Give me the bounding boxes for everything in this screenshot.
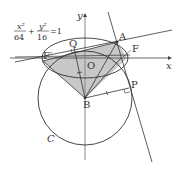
label-p: P <box>131 79 138 90</box>
y-axis-arrow-icon <box>83 13 87 17</box>
label-b: B <box>83 99 90 110</box>
eq-x-denominator: 64 <box>14 33 24 42</box>
line-ap <box>108 12 152 162</box>
label-circle-c: C <box>47 133 55 144</box>
label-o: O <box>87 60 95 71</box>
label-y-axis: y <box>76 10 83 21</box>
label-f: F <box>132 43 139 54</box>
right-angle-p <box>124 89 130 93</box>
label-f-prime: F′ <box>43 50 53 61</box>
eq-y-denominator: 16 <box>37 33 47 42</box>
ellipse-equation: x² 64 + y² 16 =1 <box>14 22 62 42</box>
geometry-diagram: A F F′ Q O B P C x y x² 64 + y² 16 =1 <box>0 0 187 176</box>
eq-plus: + <box>28 27 35 36</box>
label-x-axis: x <box>166 60 172 71</box>
eq-y-numerator: y² <box>38 22 47 31</box>
label-q: Q <box>69 38 77 49</box>
label-a: A <box>118 31 127 42</box>
label-f-leader <box>123 50 131 57</box>
eq-x-numerator: x² <box>17 22 25 31</box>
point-a <box>116 41 119 44</box>
eq-rhs: =1 <box>50 27 62 36</box>
